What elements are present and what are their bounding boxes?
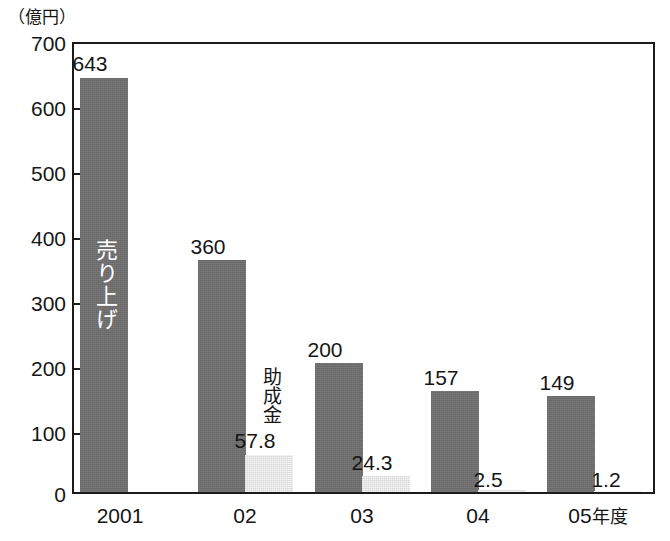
plot-area: 売り上げ 助成金	[72, 42, 655, 494]
x-tick-label-03-text: 03	[350, 504, 373, 527]
x-tick-label-05: 05年度	[538, 505, 658, 528]
y-tick-label-0: 0	[4, 484, 66, 505]
bar-subsidy-2003	[362, 476, 410, 492]
x-tick-label-02: 02	[191, 505, 299, 527]
bar-sales-2002	[198, 260, 246, 492]
series-label-sales: 売り上げ	[92, 239, 116, 331]
x-tick-label-05-text: 05	[568, 504, 591, 527]
value-label-sales-2004: 157	[405, 367, 477, 388]
value-label-sales-2005: 149	[521, 372, 593, 393]
y-tick-label-400: 400	[4, 228, 66, 249]
x-tick-label-02-text: 02	[233, 504, 256, 527]
value-label-sales-2003: 200	[289, 339, 361, 360]
value-label-subsidy-2005: 1.2	[570, 469, 642, 490]
x-tick-label-04: 04	[424, 505, 532, 527]
x-tick-label-04-text: 04	[466, 504, 489, 527]
y-tick-label-600: 600	[4, 98, 66, 119]
value-label-sales-2001: 643	[54, 53, 126, 74]
x-tick-label-03: 03	[308, 505, 416, 527]
x-axis-year-suffix: 年度	[592, 506, 628, 527]
bar-subsidy-2005	[594, 491, 642, 492]
y-tick-label-100: 100	[4, 423, 66, 444]
x-tick-label-2001-text: 2001	[97, 504, 144, 527]
y-tick-label-500: 500	[4, 163, 66, 184]
value-label-subsidy-2002: 57.8	[219, 430, 291, 451]
x-tick-label-2001: 2001	[66, 505, 174, 527]
series-label-subsidy: 助成金	[259, 367, 282, 424]
value-label-sales-2002: 360	[172, 236, 244, 257]
value-label-subsidy-2004: 2.5	[452, 469, 524, 490]
y-tick-label-300: 300	[4, 293, 66, 314]
y-tick-label-700: 700	[4, 33, 66, 54]
bar-subsidy-2002	[245, 455, 293, 492]
bar-chart: （億円） 700 600 500 400 300 200 100 0 売り上げ …	[0, 0, 670, 541]
y-tick-label-200: 200	[4, 358, 66, 379]
value-label-subsidy-2003: 24.3	[336, 452, 408, 473]
